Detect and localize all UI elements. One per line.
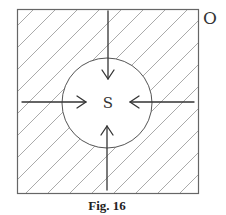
arrow-from-right-icon — [130, 96, 194, 108]
arrow-from-left-icon — [22, 96, 86, 108]
center-label: S — [103, 94, 113, 112]
outer-label: O — [203, 8, 217, 28]
figure-caption: Fig. 16 — [88, 198, 126, 213]
figure-diagram: S O Fig. 16 — [0, 0, 226, 215]
arrow-from-top-icon — [102, 11, 114, 79]
arrow-from-bottom-icon — [101, 126, 113, 190]
